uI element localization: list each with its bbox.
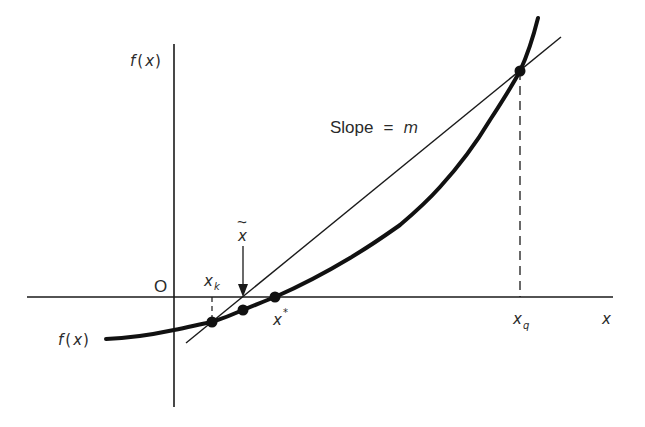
xstar-label: x*: [272, 307, 288, 329]
x-axis-label: x: [601, 310, 611, 328]
xk-label: xk: [203, 272, 221, 292]
origin-label: O: [154, 277, 167, 296]
point-xk: [207, 317, 218, 328]
secant-method-diagram: f(x) O xk ~ x x* xq x f(x) Slope=m: [0, 0, 645, 427]
xtilde-arrow: [238, 246, 248, 297]
function-curve: [106, 18, 538, 339]
curve-label: f(x): [58, 331, 89, 349]
xtilde-label: x: [237, 227, 247, 245]
axes: [27, 44, 613, 407]
arrow-head-icon: [238, 284, 248, 297]
xq-label: xq: [512, 310, 529, 331]
point-xstar: [270, 292, 281, 303]
point-xtilde: [238, 305, 249, 316]
point-xq: [515, 66, 526, 77]
slope-label: Slope=m: [330, 118, 418, 137]
y-axis-label: f(x): [130, 52, 161, 70]
